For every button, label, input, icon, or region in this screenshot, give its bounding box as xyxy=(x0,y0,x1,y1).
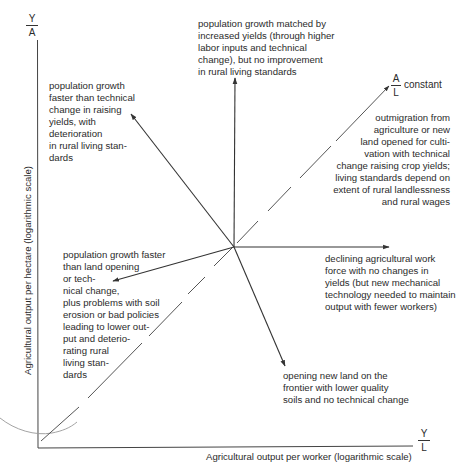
annotation-up: population growth matched by increased y… xyxy=(198,18,335,78)
y-axis-symbol: Y A xyxy=(26,13,38,38)
annotation-lower-left: population growth faster than land openi… xyxy=(63,249,165,381)
y-axis xyxy=(38,40,39,448)
x-axis-symbol-den: L xyxy=(421,442,427,453)
fraction-bar xyxy=(418,440,430,441)
reference-curve xyxy=(0,418,77,434)
annotation-right: declining agricultural work force with n… xyxy=(325,253,456,313)
fraction-bar xyxy=(391,85,401,86)
diagonal-label: constant xyxy=(404,79,442,90)
diagonal-symbol-num: A xyxy=(393,73,400,84)
diagonal-symbol-den: L xyxy=(393,87,399,98)
x-axis-symbol: Y L xyxy=(418,428,430,453)
x-axis xyxy=(38,446,413,448)
annotation-down: opening new land on the frontier with lo… xyxy=(283,370,409,406)
annotation-upper-left: population growth faster than technical … xyxy=(49,80,135,164)
y-axis-symbol-den: A xyxy=(29,27,36,38)
y-axis-label: Agricultural output per hectare (logarit… xyxy=(22,166,33,375)
x-axis-label: Agricultural output per worker (logarith… xyxy=(206,451,412,462)
arrow-upper-left xyxy=(131,114,234,247)
annotation-upper-right: outmigration from agriculture or new lan… xyxy=(296,112,450,208)
arrow-up xyxy=(234,78,235,247)
diagonal-symbol: A L xyxy=(391,73,401,98)
arrow-down xyxy=(234,247,285,366)
fraction-bar xyxy=(26,25,38,26)
y-axis-symbol-num: Y xyxy=(29,13,36,24)
x-axis-symbol-num: Y xyxy=(421,428,428,439)
